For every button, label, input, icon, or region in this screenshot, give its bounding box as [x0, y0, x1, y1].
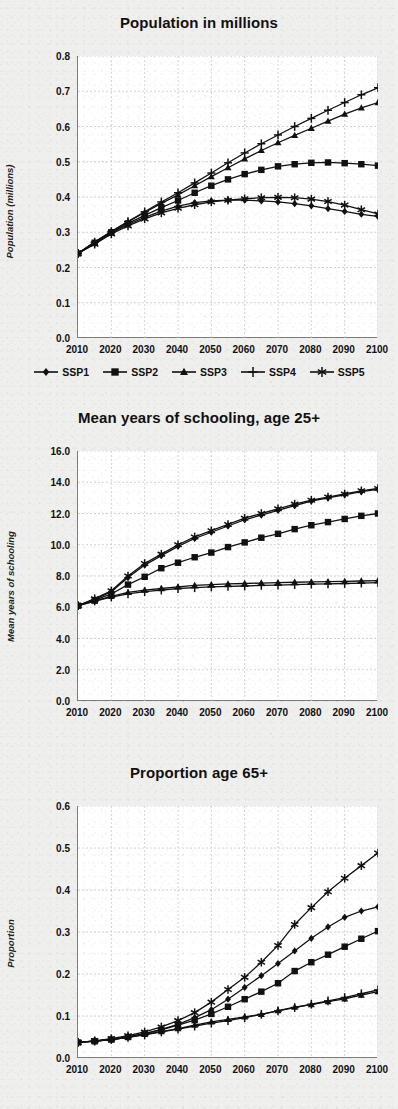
- y-tick-label: 0.3: [56, 227, 70, 238]
- legend-label: SSP2: [131, 366, 158, 378]
- y-tick-label: 0.5: [56, 156, 70, 167]
- figure-page: Population in millions Population (milli…: [0, 0, 398, 1109]
- square-marker: [125, 581, 131, 587]
- chart-svg-population: [78, 56, 378, 338]
- plot-area-proportion65: Proportion 0.00.10.20.30.40.50.6 2010202…: [0, 784, 398, 1103]
- x-tick-label: 2080: [299, 1064, 321, 1075]
- diamond-marker: [225, 996, 231, 1003]
- legend-item-ssp4[interactable]: SSP4: [240, 365, 296, 379]
- x-tick-label: 2070: [266, 1064, 288, 1075]
- asterisk-marker: [341, 874, 348, 883]
- square-marker: [241, 171, 247, 177]
- square-marker: [258, 988, 264, 994]
- x-axis-ticks-population: 2010202020302040205020602070208020902100: [77, 344, 377, 362]
- plus-marker: [291, 122, 299, 131]
- square-marker: [275, 531, 281, 537]
- legend-item-ssp5[interactable]: SSP5: [309, 365, 365, 379]
- legend-label: SSP5: [338, 366, 365, 378]
- x-tick-label: 2050: [199, 1064, 221, 1075]
- chart-svg-proportion65: [78, 806, 378, 1058]
- diamond-marker: [33, 365, 59, 379]
- x-tick-label: 2030: [133, 344, 155, 355]
- square-marker: [225, 544, 231, 550]
- square-marker: [191, 554, 197, 560]
- square-marker: [291, 161, 297, 167]
- square-marker: [341, 160, 347, 166]
- diamond-marker: [342, 914, 348, 921]
- y-tick-label: 0.7: [56, 86, 70, 97]
- x-tick-label: 2090: [333, 707, 355, 718]
- x-tick-label: 2080: [299, 707, 321, 718]
- square-marker: [241, 996, 247, 1002]
- legend-item-ssp2[interactable]: SSP2: [102, 365, 158, 379]
- square-marker: [225, 176, 231, 182]
- legend-item-ssp3[interactable]: SSP3: [171, 365, 227, 379]
- square-marker: [191, 190, 197, 196]
- legend-label: SSP4: [269, 366, 296, 378]
- plus-marker: [240, 365, 266, 379]
- square-marker: [375, 162, 378, 168]
- square-marker: [358, 513, 364, 519]
- y-tick-label: 14.0: [51, 477, 70, 488]
- y-tick-label: 10.0: [51, 539, 70, 550]
- square-marker: [175, 560, 181, 566]
- plus-marker: [324, 106, 332, 115]
- chart-panel-proportion65: Proportion age 65+ Proportion 0.00.10.20…: [0, 750, 398, 1109]
- plus-marker: [374, 83, 378, 92]
- square-marker: [358, 936, 364, 942]
- square-marker: [158, 565, 164, 571]
- plot-canvas-population: [77, 56, 377, 338]
- square-marker: [325, 951, 331, 957]
- square-marker: [325, 159, 331, 165]
- square-marker: [291, 526, 297, 532]
- diamond-marker: [325, 205, 331, 212]
- diamond-marker: [275, 960, 281, 967]
- square-marker: [341, 516, 347, 522]
- chart-svg-schooling: [78, 451, 378, 701]
- y-tick-label: 0.0: [56, 1053, 70, 1064]
- x-tick-label: 2030: [133, 707, 155, 718]
- chart-panel-schooling: Mean years of schooling, age 25+ Mean ye…: [0, 395, 398, 750]
- square-marker: [208, 183, 214, 189]
- triangle-marker: [375, 99, 379, 105]
- x-tick-label: 2030: [133, 1064, 155, 1075]
- y-tick-label: 0.2: [56, 262, 70, 273]
- y-tick-label: 8.0: [56, 571, 70, 582]
- y-tick-label: 0.3: [56, 927, 70, 938]
- legend-label: SSP3: [200, 366, 227, 378]
- x-tick-label: 2020: [99, 344, 121, 355]
- square-marker: [258, 535, 264, 541]
- y-tick-label: 0.1: [56, 1011, 70, 1022]
- x-tick-label: 2060: [233, 707, 255, 718]
- diamond-marker: [325, 923, 331, 930]
- x-tick-label: 2060: [233, 344, 255, 355]
- x-tick-label: 2080: [299, 344, 321, 355]
- plot-area-population: Population (millions) 0.00.10.20.30.40.5…: [0, 34, 398, 389]
- x-tick-label: 2010: [66, 344, 88, 355]
- plus-marker: [357, 90, 365, 99]
- asterisk-marker: [208, 998, 215, 1007]
- chart-title-population: Population in millions: [0, 0, 398, 34]
- gridlines: [78, 451, 378, 701]
- plot-canvas-proportion65: [77, 806, 377, 1058]
- square-marker: [275, 163, 281, 169]
- square-marker: [275, 980, 281, 986]
- square-marker: [325, 519, 331, 525]
- square-marker: [208, 549, 214, 555]
- x-tick-label: 2010: [66, 1064, 88, 1075]
- series-SSP2: [78, 159, 378, 256]
- y-tick-label: 0.2: [56, 969, 70, 980]
- legend-item-ssp1[interactable]: SSP1: [33, 365, 89, 379]
- x-tick-label: 2010: [66, 707, 88, 718]
- asterisk-marker: [191, 1008, 198, 1017]
- square-marker: [375, 510, 378, 516]
- square-marker: [341, 943, 347, 949]
- square-marker: [358, 161, 364, 167]
- x-tick-label: 2050: [199, 707, 221, 718]
- legend-label: SSP1: [62, 366, 89, 378]
- x-tick-label: 2070: [266, 707, 288, 718]
- y-tick-label: 6.0: [56, 602, 70, 613]
- series-SSP4: [78, 83, 378, 257]
- y-tick-label: 0.8: [56, 51, 70, 62]
- triangle-marker: [171, 365, 197, 379]
